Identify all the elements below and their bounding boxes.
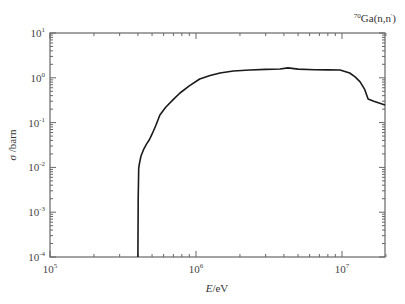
y-tick-label: 101	[31, 26, 46, 39]
x-axis-title: E/eV	[205, 282, 229, 294]
y-tick-label: 100	[31, 71, 46, 84]
axis-ticks	[50, 33, 386, 257]
title-close: )	[392, 12, 396, 25]
y-tick-label: 10-4	[28, 250, 45, 263]
y-axis-title: σ /barn	[6, 129, 18, 160]
y-tick-label: 10-1	[28, 116, 45, 129]
y-axis-unit: /barn	[6, 129, 18, 155]
x-axis-unit: /eV	[212, 282, 228, 294]
y-tick-labels: 10110010-110-210-310-4	[28, 26, 45, 263]
x-tick-label: 105	[43, 262, 58, 275]
x-tick-labels: 105106107	[43, 262, 350, 275]
data-series-line	[138, 68, 385, 257]
cross-section-chart: 105106107 10110010-110-210-310-4 70Ga(n,…	[0, 0, 405, 304]
plot-border	[50, 33, 385, 257]
x-tick-label: 106	[189, 262, 204, 275]
chart-title: 70Ga(n,n')	[354, 12, 397, 25]
y-tick-label: 10-3	[28, 205, 45, 218]
y-tick-label: 10-2	[28, 160, 45, 173]
plot-frame	[50, 33, 385, 257]
title-text: Ga(n,n	[361, 12, 392, 25]
x-tick-label: 107	[335, 262, 350, 275]
